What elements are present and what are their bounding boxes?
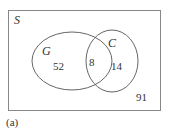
universe-label: S [14,13,20,27]
outside-count: 91 [136,91,147,103]
g-only-count: 52 [53,60,64,72]
venn-diagram: S G C 52 8 14 91 [0,0,171,131]
c-only-count: 14 [111,60,123,72]
set-g-label: G [42,44,51,58]
figure-caption: (a) [6,116,18,128]
intersection-count: 8 [89,56,95,68]
set-g-ellipse [32,32,112,90]
set-c-label: C [108,36,117,50]
